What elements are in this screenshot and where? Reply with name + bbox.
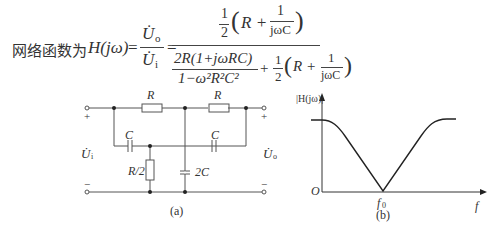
- label-r-top-right: R: [214, 88, 221, 103]
- output-voltage-label: U̇: [263, 146, 272, 162]
- label-r-shunt: R/2: [128, 164, 145, 179]
- output-terminal-minus: [262, 190, 266, 194]
- input-minus-sign: −: [84, 178, 90, 190]
- label-c-left: C: [125, 128, 133, 143]
- input-voltage-label: U̇: [81, 146, 90, 162]
- label-c-shunt: 2C: [195, 165, 209, 180]
- output-plus-sign: +: [261, 110, 267, 122]
- plot-origin: O: [311, 184, 320, 199]
- caption-b: (b): [376, 208, 390, 223]
- resistor-top-right: [209, 104, 229, 112]
- response-curve: [311, 119, 456, 191]
- output-minus-sign: −: [261, 178, 267, 190]
- label-c-right: C: [211, 128, 219, 143]
- input-plus-sign: +: [84, 110, 90, 122]
- caption-a: (a): [170, 204, 183, 219]
- resistor-top-left: [142, 104, 162, 112]
- plot-ylabel: |H(jω)|: [296, 93, 323, 104]
- circuit-diagram: [0, 0, 497, 230]
- input-terminal-minus: [85, 190, 89, 194]
- plot-xlabel: f: [475, 199, 478, 214]
- label-r-top-left: R: [147, 88, 154, 103]
- x-axis-arrow-icon: [480, 189, 487, 195]
- output-voltage-sub: o: [273, 152, 277, 161]
- input-voltage-sub: i: [91, 152, 93, 161]
